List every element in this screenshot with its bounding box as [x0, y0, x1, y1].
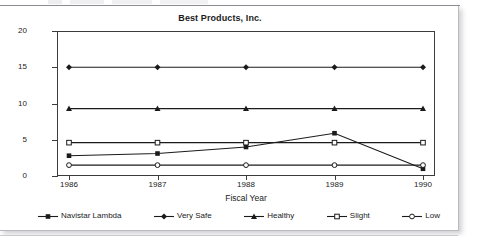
- data-point-filled-diamond: [66, 64, 72, 70]
- legend-marker-filled-triangle-icon: [244, 212, 264, 221]
- series-layer: [0, 6, 458, 230]
- data-point-open-circle: [155, 163, 160, 168]
- legend-marker-open-circle-icon: [402, 212, 422, 221]
- line-chart: Best Products, Inc. 05101520 19861987198…: [0, 6, 458, 230]
- data-point-filled-square: [67, 153, 72, 158]
- data-point-open-circle: [67, 163, 72, 168]
- legend-item-label: Navistar Lambda: [61, 212, 121, 220]
- data-point-filled-square: [46, 214, 51, 219]
- series-healthy: [66, 106, 426, 111]
- data-point-filled-square: [155, 151, 160, 156]
- chart-legend: Navistar LambdaVery SafeHealthySlightLow: [22, 209, 454, 223]
- scan-artifact-top: [48, 0, 208, 4]
- series-low: [67, 163, 426, 168]
- legend-item-label: Slight: [350, 212, 370, 220]
- legend-item-label: Healthy: [267, 212, 294, 220]
- series-slight: [67, 140, 426, 145]
- data-point-open-square: [155, 140, 160, 145]
- legend-item-label: Low: [425, 212, 440, 220]
- legend-marker-open-square-icon: [327, 212, 347, 221]
- data-point-open-circle: [244, 163, 249, 168]
- legend-item[interactable]: Slight: [327, 212, 370, 221]
- legend-marker-filled-diamond-icon: [154, 212, 174, 221]
- bottom-divider: [0, 235, 458, 236]
- page-canvas: Best Products, Inc. 05101520 19861987198…: [0, 0, 483, 236]
- data-point-open-square: [67, 140, 72, 145]
- data-point-filled-square: [332, 131, 337, 136]
- data-point-open-square: [332, 140, 337, 145]
- legend-item-label: Very Safe: [177, 212, 212, 220]
- legend-item[interactable]: Low: [402, 212, 440, 221]
- data-point-filled-diamond: [161, 213, 167, 219]
- data-point-open-square: [334, 214, 339, 219]
- figure-card: Best Products, Inc. 05101520 19861987198…: [0, 6, 459, 231]
- data-point-open-circle: [410, 214, 415, 219]
- legend-item[interactable]: Very Safe: [154, 212, 212, 221]
- data-point-filled-diamond: [420, 64, 426, 70]
- data-point-open-circle: [332, 163, 337, 168]
- legend-item[interactable]: Healthy: [244, 212, 294, 221]
- series-very-safe: [66, 64, 426, 70]
- legend-marker-filled-square-icon: [38, 212, 58, 221]
- data-point-open-circle: [421, 163, 426, 168]
- data-point-filled-diamond: [332, 64, 338, 70]
- data-point-filled-diamond: [243, 64, 249, 70]
- legend-item[interactable]: Navistar Lambda: [38, 212, 121, 221]
- data-point-open-square: [244, 140, 249, 145]
- data-point-filled-diamond: [155, 64, 161, 70]
- data-point-open-square: [421, 140, 426, 145]
